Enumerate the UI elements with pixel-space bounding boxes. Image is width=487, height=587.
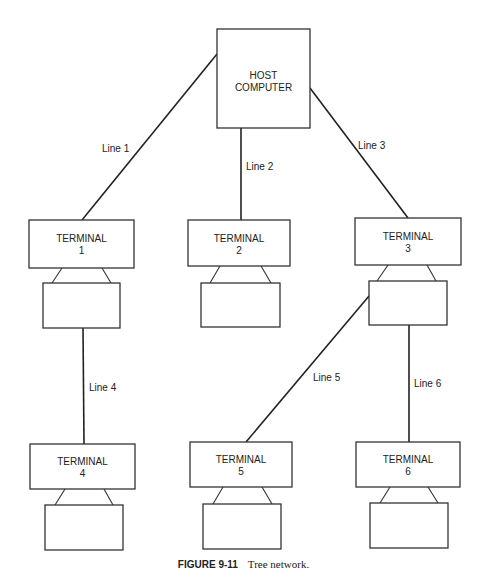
host-label-line2: COMPUTER — [235, 82, 292, 93]
terminal-stand-right — [262, 487, 272, 504]
link-line-1 — [82, 54, 217, 220]
terminal-number: 6 — [405, 466, 411, 477]
terminal-name: TERMINAL — [216, 454, 267, 465]
terminal-device-box — [203, 504, 281, 549]
terminal-node-3: TERMINAL 3 — [355, 218, 461, 325]
link-label-2: Line 2 — [246, 161, 274, 172]
terminal-name: TERMINAL — [56, 233, 107, 244]
terminal-node-6: TERMINAL 6 — [356, 442, 460, 548]
terminal-stand-right — [261, 266, 271, 283]
terminal-device-box — [369, 281, 447, 325]
host-computer-node: HOST COMPUTER — [217, 29, 310, 128]
terminal-device-box — [45, 505, 123, 550]
terminal-name: TERMINAL — [383, 454, 434, 465]
terminal-device-box — [201, 283, 280, 327]
terminal-stand-left — [210, 266, 220, 283]
link-label-4: Line 4 — [89, 382, 117, 393]
terminal-node-4: TERMINAL 4 — [30, 444, 135, 550]
host-label-line1: HOST — [250, 70, 278, 81]
terminal-name: TERMINAL — [214, 233, 265, 244]
link-label-1: Line 1 — [102, 143, 130, 154]
terminal-stand-left — [52, 268, 62, 283]
terminal-number: 3 — [405, 243, 411, 254]
terminal-node-1: TERMINAL 1 — [29, 220, 134, 328]
terminal-node-5: TERMINAL 5 — [190, 442, 292, 549]
figure-title: Tree network. — [248, 558, 309, 570]
terminal-number: 4 — [80, 468, 86, 479]
figure-number: FIGURE 9-11 — [178, 559, 238, 570]
terminal-stand-left — [377, 265, 388, 281]
terminal-stand-right — [428, 487, 438, 503]
terminal-stand-left — [380, 487, 390, 503]
terminal-device-box — [370, 503, 448, 548]
terminal-node-2: TERMINAL 2 — [188, 220, 290, 327]
link-line-3 — [310, 88, 408, 218]
terminal-stand-right — [102, 268, 111, 283]
link-label-3: Line 3 — [358, 140, 386, 151]
terminal-name: TERMINAL — [57, 456, 108, 467]
link-label-5: Line 5 — [313, 372, 341, 383]
terminal-device-box — [43, 283, 120, 328]
terminal-stand-right — [427, 265, 436, 281]
terminal-stand-left — [213, 487, 223, 504]
terminal-stand-left — [55, 489, 65, 505]
terminal-name: TERMINAL — [383, 231, 434, 242]
terminal-stand-right — [104, 489, 113, 505]
tree-network-diagram: Line 1 Line 2 Line 3 Line 4 Line 5 Line … — [0, 0, 487, 587]
link-label-6: Line 6 — [414, 378, 442, 389]
terminal-number: 2 — [236, 245, 242, 256]
figure-caption: FIGURE 9-11Tree network. — [0, 558, 487, 570]
link-line-4 — [83, 328, 84, 444]
terminal-number: 5 — [238, 466, 244, 477]
terminal-number: 1 — [79, 245, 85, 256]
terminal-box — [29, 220, 134, 268]
